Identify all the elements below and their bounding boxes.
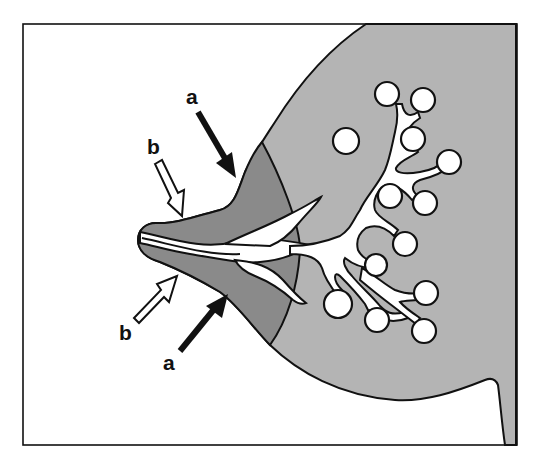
- alveolus: [437, 150, 461, 174]
- breast-anatomy-diagram: a b b a: [0, 0, 536, 473]
- alveolus: [375, 82, 399, 106]
- alveolus: [412, 319, 436, 343]
- alveolus: [333, 128, 359, 154]
- alveolus: [393, 232, 417, 256]
- alveolus: [365, 308, 389, 332]
- alveolus: [401, 127, 425, 151]
- label-b-top: b: [147, 135, 160, 158]
- alveolus: [413, 191, 437, 215]
- alveolus: [411, 88, 435, 112]
- alveolus: [414, 281, 438, 305]
- label-a-bottom: a: [163, 351, 175, 374]
- alveolus: [324, 290, 352, 318]
- label-b-bottom: b: [119, 321, 132, 344]
- alveolus: [365, 254, 387, 276]
- label-a-top: a: [186, 85, 198, 108]
- alveolus: [378, 184, 402, 208]
